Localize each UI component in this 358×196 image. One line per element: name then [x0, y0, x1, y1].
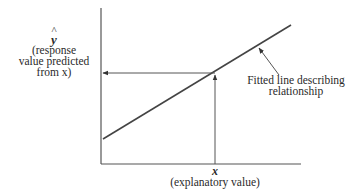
label-pointer-arrow	[259, 48, 279, 75]
x-axis-label: x (explanatory value)	[150, 166, 280, 188]
hat-accent: ^	[51, 25, 56, 36]
y-axis-label: ^y (response value predicted from x)	[6, 34, 102, 78]
x-desc: (explanatory value)	[150, 177, 280, 188]
y-desc-line-3: from x)	[6, 67, 102, 78]
fitted-line-label: Fitted line describing relationship	[234, 75, 358, 97]
y-hat-symbol: ^y	[6, 34, 102, 45]
fit-label-line-2: relationship	[234, 86, 358, 97]
